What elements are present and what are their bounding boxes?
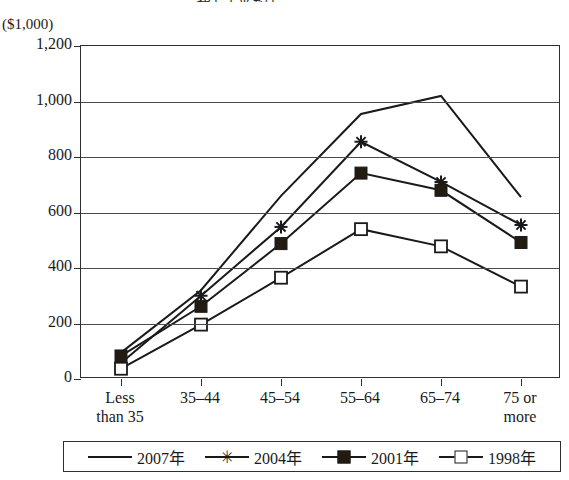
star-icon: ✳ xyxy=(220,451,234,462)
gridline xyxy=(81,324,559,325)
y-axis-tick xyxy=(74,213,81,214)
y-axis-tick-label: 800 xyxy=(6,146,72,164)
y-axis-unit-label: ($1,000) xyxy=(2,16,53,33)
y-axis-tick xyxy=(74,324,81,325)
data-point-open-square-marker xyxy=(515,281,527,293)
chart-legend: 2007年✳2004年2001年1998年 xyxy=(63,441,561,472)
legend-label: 2007年 xyxy=(137,445,185,469)
x-axis-tick xyxy=(361,379,362,386)
data-point-filled-square-marker xyxy=(115,350,127,362)
x-axis-tick-label: 65–74 xyxy=(394,388,486,407)
series-line xyxy=(121,173,521,356)
gridline xyxy=(81,213,559,214)
filled-square-icon xyxy=(338,450,351,463)
data-point-filled-square-marker xyxy=(275,238,287,250)
y-axis-tick-label: 400 xyxy=(6,257,72,275)
legend-label: 2001年 xyxy=(371,445,419,469)
legend-item[interactable]: 2007年 xyxy=(88,445,185,469)
series-line xyxy=(121,96,521,353)
legend-swatch-line xyxy=(88,450,132,464)
chart-page: 費）（平均） ($1,000) 1,2001,0008006004002000 … xyxy=(0,0,569,480)
y-axis-tick xyxy=(74,268,81,269)
series-line xyxy=(121,229,521,369)
legend-item[interactable]: 1998年 xyxy=(439,445,536,469)
x-axis-tick-label: 75 or more xyxy=(474,388,566,426)
data-point-open-square-marker xyxy=(115,363,127,375)
plot-area xyxy=(80,45,560,378)
cropped-chart-title: 費）（平均） xyxy=(196,0,285,2)
y-axis-tick-label: 0 xyxy=(6,368,72,386)
x-axis-tick-label: Less than 35 xyxy=(74,388,166,426)
y-axis-tick-label: 1,000 xyxy=(6,91,72,109)
y-axis-tick-label: 1,200 xyxy=(6,35,72,53)
data-point-star-marker xyxy=(355,135,368,148)
gridline xyxy=(81,102,559,103)
data-point-filled-square-marker xyxy=(435,184,447,196)
data-point-open-square-marker xyxy=(435,240,447,252)
data-point-star-marker xyxy=(275,220,288,233)
y-axis-tick xyxy=(74,102,81,103)
legend-swatch-open-square-marker xyxy=(439,450,483,464)
legend-label: 1998年 xyxy=(488,445,536,469)
x-axis-tick xyxy=(281,379,282,386)
legend-swatch-filled-square-marker xyxy=(322,450,366,464)
x-axis-tick-label: 45–54 xyxy=(234,388,326,407)
gridline xyxy=(81,268,559,269)
y-axis-tick-label: 600 xyxy=(6,202,72,220)
legend-item[interactable]: 2001年 xyxy=(322,445,419,469)
x-axis-tick xyxy=(121,379,122,386)
y-axis-tick xyxy=(74,379,81,380)
y-axis-tick xyxy=(74,157,81,158)
data-point-filled-square-marker xyxy=(515,236,527,248)
gridline xyxy=(81,157,559,158)
data-point-open-square-marker xyxy=(355,223,367,235)
x-axis-tick-label: 35–44 xyxy=(154,388,246,407)
data-point-open-square-marker xyxy=(195,319,207,331)
legend-item[interactable]: ✳2004年 xyxy=(205,445,302,469)
data-point-filled-square-marker xyxy=(355,167,367,179)
open-square-icon xyxy=(455,450,468,463)
data-point-star-marker xyxy=(515,218,528,231)
legend-label: 2004年 xyxy=(254,445,302,469)
x-axis-tick xyxy=(201,379,202,386)
data-point-open-square-marker xyxy=(275,272,287,284)
data-point-filled-square-marker xyxy=(195,300,207,312)
x-axis-tick xyxy=(521,379,522,386)
x-axis-tick-label: 55–64 xyxy=(314,388,406,407)
x-axis-tick xyxy=(441,379,442,386)
y-axis-tick-label: 200 xyxy=(6,313,72,331)
legend-swatch-star-marker: ✳ xyxy=(205,450,249,464)
y-axis-tick xyxy=(74,46,81,47)
